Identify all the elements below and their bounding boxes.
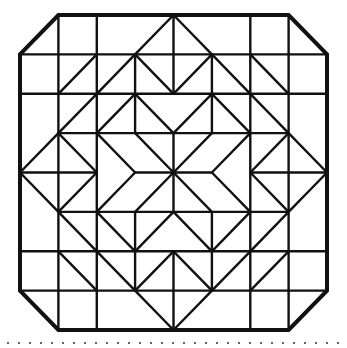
pattern-line <box>135 15 173 54</box>
dot <box>139 342 141 344</box>
pattern-line <box>97 251 135 290</box>
dot <box>40 342 42 344</box>
dotted-rule <box>7 342 339 344</box>
dot <box>183 342 185 344</box>
pattern-line <box>58 251 96 290</box>
pattern-line <box>289 173 327 212</box>
dot <box>293 342 295 344</box>
dot <box>161 342 163 344</box>
dot <box>150 342 152 344</box>
pattern-line <box>97 54 135 93</box>
pattern-line <box>174 173 212 212</box>
pattern-line <box>97 212 135 251</box>
pattern-line <box>174 54 212 93</box>
pattern-line <box>250 173 288 212</box>
pattern-line <box>135 133 173 172</box>
pattern-line <box>97 173 135 212</box>
pattern-line <box>250 251 288 290</box>
pattern-line <box>250 94 288 133</box>
pattern-line <box>250 212 288 251</box>
dot <box>282 342 284 344</box>
pattern-line <box>289 133 327 172</box>
dot <box>216 342 218 344</box>
pattern-line <box>97 133 135 172</box>
pattern-line <box>58 94 96 133</box>
dot <box>95 342 97 344</box>
pattern-line <box>174 15 212 54</box>
pattern-line <box>135 291 173 330</box>
pattern-line <box>58 173 96 212</box>
pattern-line <box>135 173 173 212</box>
dot <box>62 342 64 344</box>
pattern-line <box>135 94 173 133</box>
dot <box>249 342 251 344</box>
dot <box>117 342 119 344</box>
pattern-line <box>20 133 58 172</box>
pattern-line <box>250 133 288 172</box>
pattern-line <box>250 54 288 93</box>
pattern-line <box>135 212 173 251</box>
dot <box>304 342 306 344</box>
dot <box>315 342 317 344</box>
dot <box>172 342 174 344</box>
quilt-pattern-diagram <box>0 0 347 348</box>
pattern-line <box>174 212 212 251</box>
pattern-line <box>97 94 135 133</box>
pattern-line <box>212 212 250 251</box>
dot <box>29 342 31 344</box>
pattern-line <box>135 251 173 290</box>
dot <box>7 342 9 344</box>
pattern-line <box>174 291 212 330</box>
dot <box>18 342 20 344</box>
pattern-line <box>212 94 250 133</box>
pattern-grid-lines <box>20 15 327 330</box>
pattern-line <box>58 212 96 251</box>
pattern-line <box>212 251 250 290</box>
dot <box>326 342 328 344</box>
dot <box>194 342 196 344</box>
dot <box>337 342 339 344</box>
pattern-line <box>20 173 58 212</box>
pattern-line <box>212 173 250 212</box>
pattern-line <box>58 133 96 172</box>
pattern-line <box>174 94 212 133</box>
pattern-line <box>174 133 212 172</box>
pattern-line <box>212 54 250 93</box>
dot <box>238 342 240 344</box>
dot <box>260 342 262 344</box>
dot <box>271 342 273 344</box>
dot <box>205 342 207 344</box>
pattern-line <box>135 54 173 93</box>
dot <box>128 342 130 344</box>
dot <box>51 342 53 344</box>
pattern-line <box>58 54 96 93</box>
dot <box>227 342 229 344</box>
dot <box>84 342 86 344</box>
pattern-line <box>174 251 212 290</box>
pattern-line <box>212 133 250 172</box>
dot <box>73 342 75 344</box>
dot <box>106 342 108 344</box>
